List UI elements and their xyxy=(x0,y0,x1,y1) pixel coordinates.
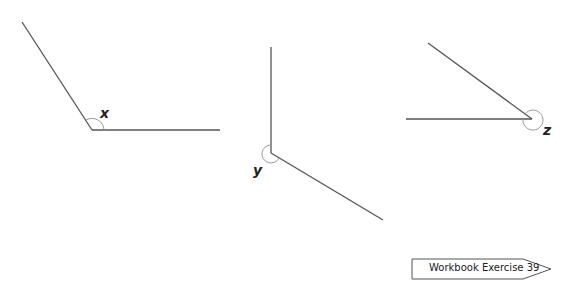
workbook-exercise-link[interactable]: Workbook Exercise 39 xyxy=(411,258,551,280)
angle-label-x: x xyxy=(100,105,109,121)
angle-label-z: z xyxy=(543,122,551,138)
angle-label-y: y xyxy=(253,162,262,178)
angle-y xyxy=(262,47,383,220)
angles-diagram xyxy=(0,0,566,289)
angle-z xyxy=(406,43,543,130)
workbook-exercise-label: Workbook Exercise 39 xyxy=(429,262,539,273)
angle-x xyxy=(22,22,220,130)
